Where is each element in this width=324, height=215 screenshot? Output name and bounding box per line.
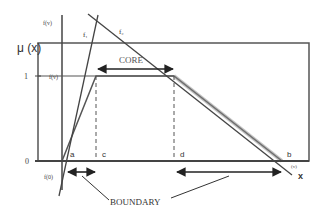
x-axis-label: x: [298, 171, 303, 181]
f-one-label: f(v): [49, 74, 58, 81]
falling-edge-shadow: [174, 76, 282, 161]
b-small-label: (v): [291, 164, 297, 169]
tick-zero-label: 0: [25, 157, 29, 166]
point-b-label: b: [287, 150, 292, 159]
membership-diagram: μ (x) f(v) 1 f(v) 0 f(0) f₁ f₂ CORE a c …: [0, 0, 324, 215]
core-label: CORE: [119, 55, 144, 65]
boundary-leader-right: [171, 176, 229, 198]
boundary-leader-left: [82, 176, 109, 200]
point-a-label: a: [70, 150, 75, 159]
boundary-label: BOUNDARY: [110, 197, 161, 207]
f2-label: f₂: [119, 28, 124, 36]
y-axis-label: μ (x): [17, 41, 41, 55]
point-c-label: c: [102, 150, 106, 159]
membership-function: [62, 76, 282, 161]
fv-axis-label: f(v): [43, 20, 52, 27]
f-zero-label: f(0): [44, 174, 53, 181]
tick-one-label: 1: [24, 72, 28, 81]
f2-line: [88, 14, 292, 175]
point-d-label: d: [180, 150, 184, 159]
f1-line: [59, 15, 98, 196]
f1-label: f₁: [83, 31, 88, 39]
